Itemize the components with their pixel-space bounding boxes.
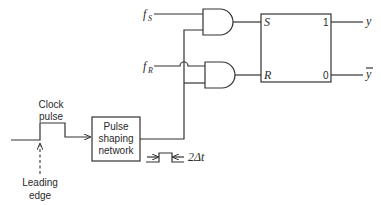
output-0-label: 0 xyxy=(323,70,329,81)
and-gate-top xyxy=(203,9,233,35)
and-gate-bottom xyxy=(205,62,235,88)
clock-label-line2: pulse xyxy=(39,111,63,122)
ybar-output-label: y xyxy=(365,67,372,81)
pulse-shaper-label-line1: Pulse xyxy=(103,121,128,132)
fs-subscript: S xyxy=(148,14,152,23)
clock-pulse-waveform xyxy=(11,123,90,140)
y-output-label: y xyxy=(365,14,372,28)
fr-wire xyxy=(154,62,205,66)
fs-input: f S xyxy=(143,7,203,23)
clock-distribution-wire xyxy=(140,30,203,139)
pulse-shaper-label-line3: network xyxy=(98,145,134,156)
leading-edge-label-line1: Leading xyxy=(22,177,58,188)
s-input-label: S xyxy=(264,15,270,29)
fr-subscript: R xyxy=(147,66,153,75)
sr-flipflop-box xyxy=(261,14,331,82)
clock-label-line1: Clock xyxy=(38,99,64,110)
r-input-label: R xyxy=(263,68,272,82)
pulse-shaper-label-line2: shaping xyxy=(98,133,133,144)
leading-edge-label-line2: edge xyxy=(29,190,52,201)
sr-flipflop-clocked-diagram: f S f R S R 1 0 y y Clock pulse Leading … xyxy=(0,0,381,205)
output-1-label: 1 xyxy=(323,17,329,28)
fr-input: f R xyxy=(143,59,205,75)
pulse-width-label: 2Δt xyxy=(188,150,205,164)
